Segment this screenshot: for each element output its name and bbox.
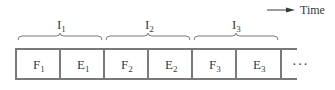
cell-execute-2: E2 <box>165 57 177 74</box>
cell-execute-3: E3 <box>253 57 266 74</box>
cell-labels: F1 E1 F2 E2 F3 E3 <box>33 57 266 74</box>
time-legend: Time <box>267 3 325 17</box>
cell-fetch-3: F3 <box>209 57 221 74</box>
arrowhead-icon <box>286 8 295 13</box>
cell-fetch-2: F2 <box>121 57 133 74</box>
instruction-braces <box>18 33 278 40</box>
brace-3 <box>194 33 278 40</box>
instruction-label-2: I2 <box>145 17 154 34</box>
instruction-label-1: I1 <box>57 17 66 34</box>
brace-2 <box>106 33 190 40</box>
continuation-ellipsis: ··· <box>292 57 309 72</box>
cell-execute-1: E1 <box>77 57 89 74</box>
brace-1 <box>18 33 102 40</box>
cell-fetch-1: F1 <box>33 57 45 74</box>
instruction-label-3: I3 <box>232 17 241 34</box>
instruction-labels: I1 I2 I3 <box>57 17 241 34</box>
time-label: Time <box>300 3 325 17</box>
fetch-execute-timeline-diagram: Time I1 I2 I3 F1 E1 F2 E2 F3 E3 ··· <box>0 0 335 90</box>
